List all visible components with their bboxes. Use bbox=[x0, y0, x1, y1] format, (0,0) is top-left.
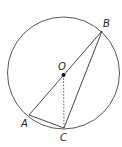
label-a: A bbox=[20, 118, 28, 129]
label-b: B bbox=[103, 18, 110, 29]
circle-diagram: O A B C bbox=[0, 0, 122, 147]
label-o: O bbox=[58, 61, 66, 72]
segment-oc-dashed bbox=[64, 75, 65, 128]
center-point-o bbox=[62, 73, 66, 77]
chord-ab bbox=[29, 31, 102, 115]
label-c: C bbox=[60, 132, 67, 143]
chord-bc bbox=[64, 31, 102, 128]
